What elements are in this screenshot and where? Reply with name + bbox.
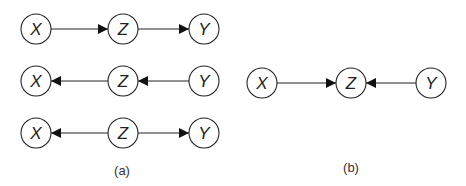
svg-text:Z: Z — [117, 124, 129, 143]
panel-a-row-3-fork: X Z Y — [21, 118, 219, 148]
svg-text:Y: Y — [425, 74, 438, 93]
node-y: Y — [189, 118, 219, 148]
svg-text:Z: Z — [117, 72, 129, 91]
node-x: X — [21, 118, 51, 148]
panel-b-caption: (b) — [343, 160, 359, 175]
svg-text:Y: Y — [198, 20, 211, 39]
svg-text:Z: Z — [345, 74, 357, 93]
svg-text:X: X — [29, 124, 42, 143]
node-y: Y — [416, 68, 446, 98]
node-x: X — [21, 14, 51, 44]
node-z: Z — [336, 68, 366, 98]
svg-text:X: X — [29, 20, 42, 39]
panel-a-caption: (a) — [114, 163, 130, 178]
panel-b-collider: X Z Y — [247, 68, 446, 98]
node-y: Y — [189, 66, 219, 96]
panel-a-row-2-chain-reversed: X Z Y — [21, 66, 219, 96]
svg-text:Y: Y — [198, 124, 211, 143]
svg-text:X: X — [255, 74, 268, 93]
causal-graph-diagram: X Z Y X Z Y X Z Y (a) X Z Y (b) — [0, 0, 466, 186]
panel-a-row-1-chain: X Z Y — [21, 14, 219, 44]
node-z: Z — [108, 118, 138, 148]
node-z: Z — [108, 14, 138, 44]
node-z: Z — [108, 66, 138, 96]
node-x: X — [21, 66, 51, 96]
svg-text:Z: Z — [117, 20, 129, 39]
svg-text:Y: Y — [198, 72, 211, 91]
svg-text:X: X — [29, 72, 42, 91]
node-y: Y — [189, 14, 219, 44]
node-x: X — [247, 68, 277, 98]
